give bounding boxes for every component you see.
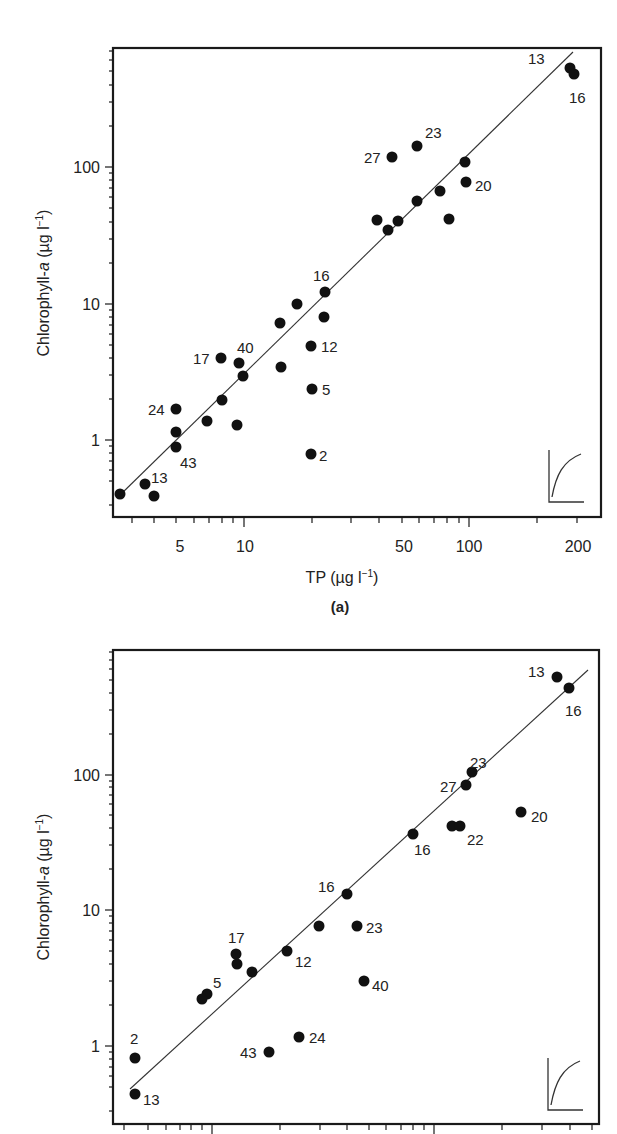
data-point — [276, 362, 287, 373]
chart-a-points — [115, 63, 580, 502]
data-point — [292, 299, 303, 310]
chart-b-regression-line — [130, 670, 588, 1089]
point-label: 16 — [414, 841, 431, 858]
data-point — [319, 312, 330, 323]
point-label: 24 — [309, 1029, 326, 1046]
chart-a-y-axis-title: Chlorophyll-a (µg l−1) — [34, 210, 52, 357]
data-point — [383, 225, 394, 236]
chart-a-point-labels: 13 16 23 27 20 16 12 17 40 5 24 2 43 13 — [148, 50, 586, 486]
chart-a-y-tick-labels: 100 10 1 — [73, 159, 100, 449]
x-tick-100: 100 — [456, 538, 483, 555]
data-point — [130, 1053, 141, 1064]
y-tick-100: 100 — [73, 159, 100, 176]
saturation-curve-icon — [549, 450, 584, 502]
data-point — [307, 384, 318, 395]
point-label: 2 — [319, 447, 327, 464]
point-label: 20 — [531, 808, 548, 825]
y-tick-100: 100 — [73, 767, 100, 784]
data-point — [232, 420, 243, 431]
data-point — [282, 946, 293, 957]
data-point — [352, 921, 363, 932]
point-label: 16 — [313, 267, 330, 284]
data-point — [393, 216, 404, 227]
data-point — [516, 807, 527, 818]
data-point — [216, 353, 227, 364]
data-point — [202, 416, 213, 427]
data-point — [342, 889, 353, 900]
chart-a: 100 10 1 5 10 50 100 200 Chlorophyll-a ( — [34, 48, 601, 615]
data-point — [460, 157, 471, 168]
x-tick-50: 50 — [395, 538, 413, 555]
data-point — [435, 186, 446, 197]
data-point — [314, 921, 325, 932]
y-tick-10: 10 — [82, 296, 100, 313]
point-label: 23 — [470, 754, 487, 771]
chart-b-point-labels: 13 16 23 27 20 16 22 16 23 12 17 5 40 24… — [130, 663, 582, 1108]
point-label: 23 — [425, 124, 442, 141]
data-point — [171, 442, 182, 453]
data-point — [387, 152, 398, 163]
chart-b-y-tick-labels: 100 10 1 — [73, 767, 100, 1055]
data-point — [130, 1089, 141, 1100]
data-point — [197, 994, 208, 1005]
data-point — [231, 949, 242, 960]
y-tick-1: 1 — [91, 1038, 100, 1055]
x-tick-10: 10 — [236, 538, 254, 555]
chart-a-frame — [113, 48, 601, 517]
point-label: 22 — [467, 831, 484, 848]
data-point — [264, 1047, 275, 1058]
chart-b-y-axis-title: Chlorophyll-a (µg l−1) — [34, 814, 52, 961]
data-point — [461, 780, 472, 791]
data-point — [412, 196, 423, 207]
point-label: 40 — [237, 339, 254, 356]
chart-b: 100 10 1 Chlorophyll-a (µg l−1) — [34, 650, 599, 1134]
chart-a-x-tick-labels: 5 10 50 100 200 — [176, 538, 592, 555]
data-point — [234, 358, 245, 369]
data-point — [564, 683, 575, 694]
data-point — [306, 341, 317, 352]
point-label: 27 — [364, 149, 381, 166]
point-label: 5 — [322, 381, 330, 398]
data-point — [569, 69, 580, 80]
y-tick-10: 10 — [82, 902, 100, 919]
data-point — [232, 959, 243, 970]
chart-b-x-ticks — [124, 1124, 592, 1134]
point-label: 43 — [180, 454, 197, 471]
x-tick-200: 200 — [565, 538, 592, 555]
point-label: 13 — [143, 1091, 160, 1108]
data-point — [552, 672, 563, 683]
data-point — [238, 371, 249, 382]
data-point — [171, 427, 182, 438]
figure: 100 10 1 5 10 50 100 200 Chlorophyll-a ( — [0, 0, 617, 1134]
chart-a-x-ticks — [132, 517, 577, 527]
point-label: 27 — [440, 778, 457, 795]
point-label: 20 — [475, 177, 492, 194]
chart-a-x-axis-title: TP (µg l−1) — [306, 568, 379, 586]
point-label: 12 — [321, 338, 338, 355]
saturation-curve-icon — [548, 1058, 583, 1110]
data-point — [171, 404, 182, 415]
point-label: 2 — [130, 1030, 138, 1047]
point-label: 13 — [151, 469, 168, 486]
point-label: 17 — [228, 929, 245, 946]
data-point — [217, 395, 228, 406]
point-label: 16 — [318, 878, 335, 895]
point-label: 16 — [569, 89, 586, 106]
point-label: 5 — [213, 974, 221, 991]
point-label: 17 — [193, 350, 210, 367]
data-point — [115, 489, 126, 500]
data-point — [461, 177, 472, 188]
chart-a-panel-label: (a) — [331, 598, 349, 615]
data-point — [306, 449, 317, 460]
chart-b-frame — [113, 650, 599, 1124]
data-point — [294, 1032, 305, 1043]
data-point — [320, 287, 331, 298]
x-tick-5: 5 — [176, 538, 185, 555]
point-label: 43 — [240, 1044, 257, 1061]
chart-a-regression-line — [118, 52, 573, 497]
data-point — [359, 976, 370, 987]
data-point — [247, 967, 258, 978]
point-label: 23 — [366, 919, 383, 936]
data-point — [275, 318, 286, 329]
point-label: 13 — [528, 50, 545, 67]
